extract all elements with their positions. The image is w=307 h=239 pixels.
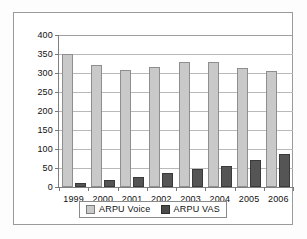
bar-group-2005 — [235, 35, 264, 187]
x-tick-2000 — [88, 187, 89, 191]
chart-frame: 050100150200250300350400 199920002001200… — [13, 12, 293, 225]
x-axis-label-2005: 2005 — [239, 194, 260, 204]
y-axis-label-200: 200 — [37, 106, 53, 116]
bar-arpu-voice-2002 — [149, 67, 160, 187]
bar-arpu-vas-2003 — [192, 169, 203, 187]
bar-arpu-vas-2002 — [162, 173, 173, 187]
bar-arpu-vas-2005 — [250, 160, 261, 187]
y-axis-label-300: 300 — [37, 68, 53, 78]
bar-group-2000 — [88, 35, 117, 187]
bar-group-2003 — [176, 35, 205, 187]
legend-item-arpu-voice: ARPU Voice — [86, 204, 151, 214]
legend-label-arpu-vas: ARPU VAS — [174, 204, 220, 214]
x-tick-1999 — [59, 187, 60, 191]
chart-legend: ARPU Voice ARPU VAS — [79, 201, 227, 218]
x-tick-2005 — [235, 187, 236, 191]
legend-swatch-vas-icon — [161, 205, 170, 214]
bar-group-2006 — [264, 35, 293, 187]
y-axis-label-50: 50 — [43, 163, 53, 173]
bar-arpu-vas-2006 — [279, 154, 290, 187]
bar-arpu-voice-2004 — [208, 62, 219, 187]
bar-arpu-voice-2005 — [237, 68, 248, 187]
y-axis-label-250: 250 — [37, 87, 53, 97]
bar-group-2001 — [118, 35, 147, 187]
bar-arpu-voice-1999 — [62, 54, 73, 187]
bar-arpu-vas-2001 — [133, 177, 144, 187]
x-tick-2003 — [176, 187, 177, 191]
bar-arpu-voice-2001 — [120, 70, 131, 187]
x-tick-2006 — [264, 187, 265, 191]
bar-arpu-vas-2000 — [104, 180, 115, 187]
x-tick-2002 — [147, 187, 148, 191]
bar-group-1999 — [59, 35, 88, 187]
bar-group-2002 — [147, 35, 176, 187]
bar-arpu-voice-2006 — [266, 71, 277, 187]
y-axis-label-350: 350 — [37, 49, 53, 59]
bar-arpu-voice-2003 — [179, 62, 190, 187]
x-tick-2001 — [118, 187, 119, 191]
bar-arpu-vas-1999 — [75, 183, 86, 187]
bar-arpu-voice-2000 — [91, 65, 102, 187]
x-tick-end — [293, 187, 294, 191]
y-axis-label-0: 0 — [48, 182, 53, 192]
y-axis-label-100: 100 — [37, 144, 53, 154]
y-axis-label-400: 400 — [37, 30, 53, 40]
x-axis-label-2006: 2006 — [268, 194, 289, 204]
y-axis-label-150: 150 — [37, 125, 53, 135]
bar-group-2004 — [205, 35, 234, 187]
x-tick-2004 — [205, 187, 206, 191]
legend-item-arpu-vas: ARPU VAS — [161, 204, 220, 214]
scanned-page-background: 050100150200250300350400 199920002001200… — [0, 0, 307, 239]
plot-area: 050100150200250300350400 199920002001200… — [58, 35, 293, 188]
legend-swatch-voice-icon — [86, 205, 95, 214]
bar-arpu-vas-2004 — [221, 166, 232, 187]
legend-label-arpu-voice: ARPU Voice — [99, 204, 151, 214]
